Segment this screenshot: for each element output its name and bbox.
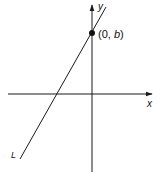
coordinate-diagram: y x L (0, b) [0, 0, 167, 174]
line-l [20, 7, 106, 159]
y-intercept-point [89, 30, 95, 36]
y-axis-label: y [97, 1, 104, 12]
line-label: L [11, 150, 16, 160]
point-label: (0, b) [98, 28, 124, 40]
x-axis-label: x [146, 98, 153, 109]
